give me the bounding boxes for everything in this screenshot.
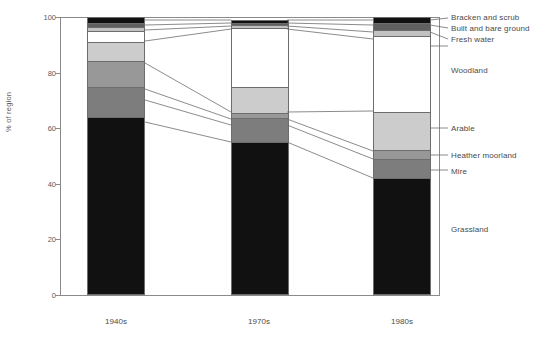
legend-label-bracken-and-scrub: Bracken and scrub: [451, 13, 519, 22]
legend-label-grassland: Grassland: [451, 225, 488, 234]
legend-label-heather-moorland: Heather moorland: [451, 151, 517, 160]
stacked-bar-chart: % of region 100 80 60 40 20 0: [0, 0, 533, 339]
legend-label-mire: Mire: [451, 167, 467, 176]
legend-label-arable: Arable: [451, 124, 475, 133]
x-tick-label-1980s: 1980s: [362, 317, 442, 326]
legend-label-built-and-bare-ground: Built and bare ground: [451, 24, 530, 33]
x-tick-label-1970s: 1970s: [219, 317, 299, 326]
legend-label-woodland: Woodland: [451, 66, 488, 75]
legend-label-fresh-water: Fresh water: [451, 35, 494, 44]
x-tick-label-1940s: 1940s: [76, 317, 156, 326]
